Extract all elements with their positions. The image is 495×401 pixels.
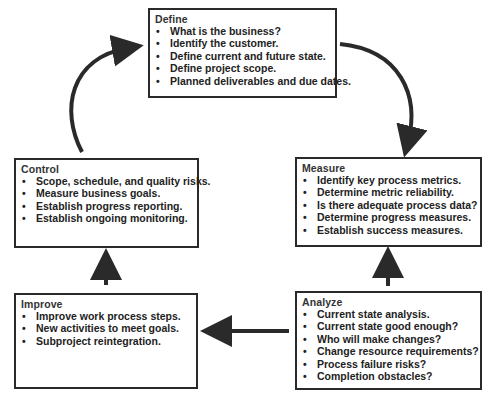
bullet-icon: •	[22, 335, 26, 347]
list-item: •Define current and future state.	[155, 50, 331, 62]
list-item: •Current state good enough?	[302, 320, 476, 332]
item-text: Identify key process metrics.	[317, 174, 461, 186]
bullet-icon: •	[303, 174, 307, 186]
list-item: •Define project scope.	[155, 62, 331, 74]
list-item: •Measure business goals.	[21, 187, 193, 199]
list-item: •Subproject reintegration.	[21, 335, 192, 347]
item-text: Establish ongoing monitoring.	[36, 212, 188, 224]
list-item: •Identify the customer.	[155, 37, 331, 49]
list-item: •Current state analysis.	[302, 308, 476, 320]
list-item: •What is the business?	[155, 25, 331, 37]
stage-define-title: Define	[155, 13, 331, 25]
item-text: Process failure risks?	[317, 358, 426, 370]
bullet-icon: •	[156, 75, 160, 87]
stage-improve-list: •Improve work process steps. •New activi…	[21, 310, 192, 347]
stage-measure-box: Measure •Identify key process metrics. •…	[295, 157, 482, 247]
stage-measure-list: •Identify key process metrics. •Determin…	[302, 174, 476, 236]
item-text: Current state good enough?	[317, 320, 458, 332]
list-item: •Improve work process steps.	[21, 310, 192, 322]
bullet-icon: •	[303, 333, 307, 345]
item-text: New activities to meet goals.	[36, 322, 179, 334]
bullet-icon: •	[22, 310, 26, 322]
item-text: Define current and future state.	[170, 50, 326, 62]
bullet-icon: •	[22, 322, 26, 334]
list-item: •Identify key process metrics.	[302, 174, 476, 186]
list-item: •New activities to meet goals.	[21, 322, 192, 334]
item-text: Completion obstacles?	[317, 370, 433, 382]
item-text: Measure business goals.	[36, 187, 160, 199]
stage-control-box: Control •Scope, schedule, and quality ri…	[14, 158, 199, 248]
item-text: Is there adequate process data?	[317, 199, 477, 211]
arrow-define-to-measure	[340, 44, 411, 142]
list-item: •Process failure risks?	[302, 358, 476, 370]
bullet-icon: •	[156, 25, 160, 37]
item-text: Identify the customer.	[170, 37, 279, 49]
list-item: •Establish success measures.	[302, 224, 476, 236]
item-text: Define project scope.	[170, 62, 276, 74]
item-text: Determine metric reliability.	[317, 186, 454, 198]
item-text: Planned deliverables and due dates.	[170, 75, 351, 87]
item-text: Scope, schedule, and quality risks.	[36, 175, 210, 187]
stage-control-title: Control	[21, 163, 193, 175]
stage-measure-title: Measure	[302, 162, 476, 174]
stage-define-box: Define •What is the business? •Identify …	[148, 8, 337, 98]
item-text: Establish progress reporting.	[36, 200, 182, 212]
item-text: Who will make changes?	[317, 333, 441, 345]
stage-improve-title: Improve	[21, 298, 192, 310]
list-item: •Establish ongoing monitoring.	[21, 212, 193, 224]
list-item: •Change resource requirements?	[302, 345, 476, 357]
list-item: •Determine progress measures.	[302, 211, 476, 223]
list-item: •Planned deliverables and due dates.	[155, 75, 331, 87]
list-item: •Who will make changes?	[302, 333, 476, 345]
stage-analyze-box: Analyze •Current state analysis. •Curren…	[295, 291, 482, 390]
list-item: •Is there adequate process data?	[302, 199, 476, 211]
item-text: Determine progress measures.	[317, 211, 471, 223]
item-text: Improve work process steps.	[36, 310, 181, 322]
stage-improve-box: Improve •Improve work process steps. •Ne…	[14, 293, 198, 389]
bullet-icon: •	[156, 37, 160, 49]
list-item: •Scope, schedule, and quality risks.	[21, 175, 193, 187]
bullet-icon: •	[22, 212, 26, 224]
bullet-icon: •	[303, 320, 307, 332]
stage-analyze-title: Analyze	[302, 296, 476, 308]
bullet-icon: •	[303, 308, 307, 320]
bullet-icon: •	[22, 200, 26, 212]
bullet-icon: •	[303, 186, 307, 198]
arrow-control-to-define	[71, 48, 128, 152]
item-text: What is the business?	[170, 25, 281, 37]
bullet-icon: •	[22, 187, 26, 199]
bullet-icon: •	[303, 224, 307, 236]
bullet-icon: •	[303, 345, 307, 357]
bullet-icon: •	[156, 62, 160, 74]
stage-control-list: •Scope, schedule, and quality risks. •Me…	[21, 175, 193, 225]
item-text: Subproject reintegration.	[36, 335, 161, 347]
bullet-icon: •	[303, 211, 307, 223]
bullet-icon: •	[303, 370, 307, 382]
list-item: •Completion obstacles?	[302, 370, 476, 382]
list-item: •Determine metric reliability.	[302, 186, 476, 198]
item-text: Establish success measures.	[317, 224, 463, 236]
stage-analyze-list: •Current state analysis. •Current state …	[302, 308, 476, 382]
item-text: Current state analysis.	[317, 308, 430, 320]
bullet-icon: •	[303, 358, 307, 370]
bullet-icon: •	[303, 199, 307, 211]
bullet-icon: •	[22, 175, 26, 187]
stage-define-list: •What is the business? •Identify the cus…	[155, 25, 331, 87]
list-item: •Establish progress reporting.	[21, 200, 193, 212]
bullet-icon: •	[156, 50, 160, 62]
item-text: Change resource requirements?	[317, 345, 479, 357]
